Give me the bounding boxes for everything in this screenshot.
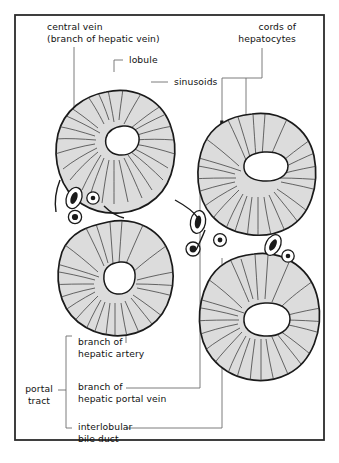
label-sinusoids: sinusoids [174,76,217,88]
central-vein-top-left [106,126,139,155]
central-vein-bottom-right [244,303,290,336]
label-portal-tract: portal tract [20,383,58,408]
label-branch-hepatic-artery: branch of hepatic artery [78,336,144,361]
label-lobule: lobule [129,54,158,66]
central-vein-top-right [244,152,288,181]
label-central-vein: central vein (branch of hepatic vein) [47,21,160,46]
label-branch-hepatic-portal-vein: branch of hepatic portal vein [78,381,166,406]
label-cords-of-hepatocytes: cords of hepatocytes [196,21,296,46]
figure-canvas: central vein (branch of hepatic vein) lo… [0,0,339,463]
label-interlobular-bile-duct: interlobular bile duct [78,421,132,446]
central-vein-bottom-left [104,262,135,294]
